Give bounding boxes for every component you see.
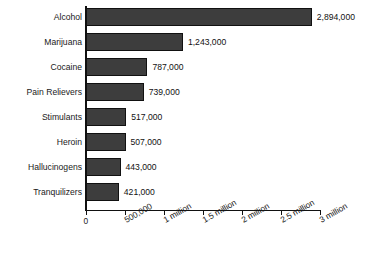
x-tick-label: 3 million: [318, 202, 349, 225]
bar-value-label: 443,000: [126, 163, 157, 172]
x-tick: [86, 210, 87, 215]
bar: [86, 58, 147, 76]
bar-row: 2,894,000: [86, 8, 312, 26]
bar-value-label: 421,000: [124, 188, 155, 197]
bar-value-label: 739,000: [149, 88, 180, 97]
bar-row: 739,000: [86, 83, 144, 101]
bar-row: 1,243,000: [86, 33, 183, 51]
bar-value-label: 507,000: [131, 138, 162, 147]
plot-area: 2,894,0001,243,000787,000739,000517,0005…: [86, 8, 320, 209]
bar-value-label: 2,894,000: [317, 13, 355, 22]
bar: [86, 8, 312, 26]
category-label: Cocaine: [0, 63, 82, 72]
bar: [86, 33, 183, 51]
bar-row: 787,000: [86, 58, 147, 76]
bar: [86, 108, 126, 126]
bar-chart: AlcoholMarijuanaCocainePain RelieversSti…: [0, 0, 381, 258]
bar-value-label: 517,000: [131, 113, 162, 122]
category-label: Marijuana: [0, 38, 82, 47]
category-label: Heroin: [0, 138, 82, 147]
category-label: Alcohol: [0, 13, 82, 22]
category-label: Pain Relievers: [0, 88, 82, 97]
bar-row: 443,000: [86, 158, 121, 176]
bar-value-label: 1,243,000: [188, 38, 226, 47]
bar: [86, 183, 119, 201]
category-label: Tranquilizers: [0, 188, 82, 197]
category-label: Hallucinogens: [0, 163, 82, 172]
bar-row: 421,000: [86, 183, 119, 201]
bar: [86, 133, 126, 151]
category-label: Stimulants: [0, 113, 82, 122]
bar: [86, 83, 144, 101]
bar-value-label: 787,000: [152, 63, 183, 72]
bar-row: 517,000: [86, 108, 126, 126]
bar: [86, 158, 121, 176]
x-tick-label: 0: [84, 217, 89, 225]
bar-row: 507,000: [86, 133, 126, 151]
